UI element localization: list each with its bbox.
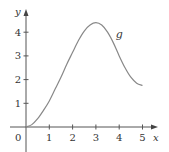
y-tick-label: 4 (15, 27, 21, 38)
y-tick-label: 1 (15, 98, 21, 109)
y-axis-label: y (14, 6, 21, 17)
origin-label: 0 (15, 132, 21, 143)
x-tick-label: 2 (69, 132, 75, 143)
y-axis-arrow-icon (24, 9, 29, 16)
x-tick-label: 4 (116, 132, 122, 143)
x-tick-label: 1 (46, 132, 52, 143)
chart-canvas: 123451234 x y 0 g (0, 0, 169, 152)
x-tick-label: 3 (93, 132, 99, 143)
curve-label-g: g (116, 28, 123, 41)
tick-labels: 123451234 (15, 27, 146, 143)
y-tick-label: 2 (15, 74, 21, 85)
x-axis-label: x (153, 132, 159, 143)
curve-g (26, 23, 143, 127)
x-axis-arrow-icon (151, 125, 158, 130)
ticks (24, 32, 143, 129)
y-tick-label: 3 (15, 50, 21, 61)
x-tick-label: 5 (139, 132, 145, 143)
